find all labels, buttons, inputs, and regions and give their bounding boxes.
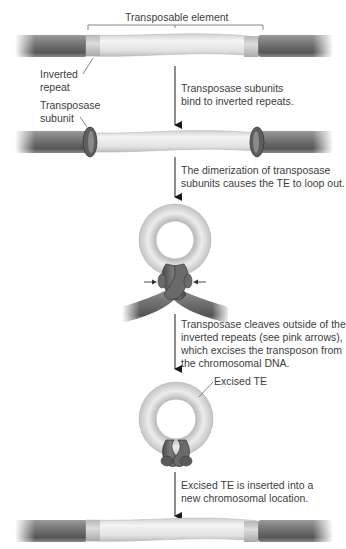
transposable-element-label: Transposable element [125, 11, 229, 24]
excised-te [139, 382, 213, 456]
step-2-text-line1: The dimerization of transposase [181, 164, 330, 177]
cleavage-arrow-left [144, 280, 157, 285]
step-1-text-line1: Transposase subunits [181, 82, 283, 95]
looped-te [122, 204, 230, 326]
dna-strand-2 [15, 131, 333, 153]
transposase-leader [80, 117, 87, 127]
transposase-subunit-left [83, 127, 97, 157]
step-4-text-line1: Excised TE is inserted into a [181, 479, 313, 492]
te-bracket [88, 25, 263, 30]
step-3-text-line4: the chromosomal DNA. [181, 357, 290, 370]
dna-strand-1 [15, 34, 333, 57]
inverted-repeat-leader [83, 58, 93, 74]
step-1-text-line2: bind to inverted repeats. [181, 95, 294, 108]
transposase-subunit-label-line2: subunit [40, 112, 74, 125]
transposase-subunit-right [250, 127, 264, 157]
cleavage-arrow-right [193, 280, 206, 285]
excised-te-leader [199, 382, 213, 397]
step-3-text-line3: which excises the transposon from [181, 344, 342, 357]
step-2-text-line2: subunits causes the TE to loop out. [181, 177, 345, 190]
inverted-repeat-label-line2: repeat [40, 81, 70, 94]
step-3-text-line1: Transposase cleaves outside of the [181, 318, 346, 331]
transposase-subunit-label-line1: Transposase [40, 99, 100, 112]
step-4-text-line2: new chromosomal location. [181, 492, 308, 505]
dna-strand-5 [15, 518, 333, 542]
inverted-repeat-label-line1: Inverted [40, 68, 78, 81]
excised-te-label: Excised TE [214, 375, 267, 388]
step-3-text-line2: inverted repeats (see pink arrows), [181, 331, 343, 344]
